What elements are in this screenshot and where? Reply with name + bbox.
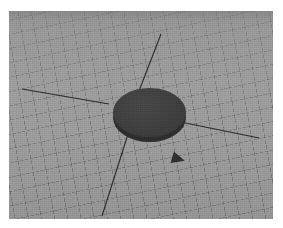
- 3d-viewport[interactable]: [9, 11, 273, 219]
- page-margin-left: [0, 0, 9, 228]
- screenshot-root: [0, 0, 283, 228]
- image-grain-overlay: [9, 11, 273, 219]
- clipped-header-strip: [0, 0, 283, 9]
- page-margin-top: [0, 9, 283, 11]
- page-margin-right: [273, 0, 283, 228]
- page-margin-bottom: [0, 219, 283, 228]
